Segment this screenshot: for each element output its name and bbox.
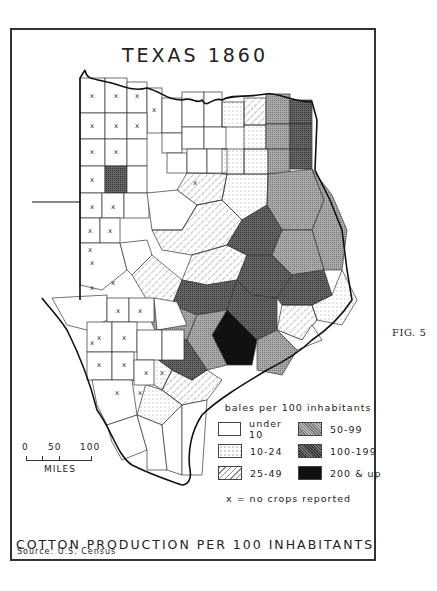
swatch-dark-crosshatch: [298, 444, 322, 458]
svg-text:x: x: [116, 307, 120, 315]
scale-tick-100: 100: [80, 442, 100, 452]
svg-text:x: x: [90, 203, 94, 211]
east-counties: [117, 169, 357, 425]
svg-text:x: x: [90, 259, 94, 267]
legend-item-10-24: 10-24: [218, 443, 298, 459]
svg-text:x: x: [160, 369, 164, 377]
svg-text:x: x: [90, 92, 94, 100]
svg-text:x: x: [88, 246, 92, 254]
swatch-medium-hatch: [298, 422, 322, 436]
legend-item-under-10: under 10: [218, 421, 298, 437]
svg-text:x: x: [114, 148, 118, 156]
svg-text:x: x: [90, 284, 94, 292]
figure-label: FIG. 5: [392, 327, 426, 338]
svg-text:x: x: [111, 203, 115, 211]
legend-item-100-199: 100-199: [298, 443, 388, 459]
svg-text:x: x: [122, 334, 126, 342]
scale-bar: 0 50 100 MILES: [22, 442, 102, 474]
svg-text:x: x: [152, 106, 156, 114]
svg-text:x: x: [90, 148, 94, 156]
legend-note: x = no crops reported: [226, 493, 388, 504]
svg-text:x: x: [97, 334, 101, 342]
svg-text:x: x: [90, 176, 94, 184]
svg-text:x: x: [135, 92, 139, 100]
svg-text:x: x: [144, 369, 148, 377]
map-frame: TEXAS 1860: [10, 28, 376, 561]
legend-item-200-up: 200 & up: [298, 465, 388, 481]
source-note: Source: U.S. Census: [17, 547, 116, 556]
svg-text:x: x: [114, 122, 118, 130]
svg-text:x: x: [97, 361, 101, 369]
svg-text:x: x: [115, 389, 119, 397]
svg-text:x: x: [108, 227, 112, 235]
svg-text:x: x: [138, 389, 142, 397]
northeast-counties: [222, 94, 312, 174]
svg-text:x: x: [138, 307, 142, 315]
svg-text:x: x: [114, 92, 118, 100]
scale-tick-0: 0: [22, 442, 29, 452]
legend-item-25-49: 25-49: [218, 465, 298, 481]
swatch-diagonal-lines: [218, 466, 242, 480]
swatch-solid-black: [298, 466, 322, 480]
scale-unit: MILES: [18, 464, 102, 474]
svg-text:x: x: [90, 122, 94, 130]
swatch-dots: [218, 444, 242, 458]
svg-text:x: x: [111, 279, 115, 287]
legend: bales per 100 inhabitants under 10 50-99…: [218, 402, 388, 504]
swatch-blank: [218, 422, 241, 436]
legend-heading: bales per 100 inhabitants: [208, 402, 388, 413]
scale-tick-50: 50: [48, 442, 61, 452]
svg-text:x: x: [90, 339, 94, 347]
legend-item-50-99: 50-99: [298, 421, 388, 437]
svg-text:x: x: [135, 122, 139, 130]
svg-text:x: x: [88, 227, 92, 235]
svg-text:x: x: [122, 361, 126, 369]
svg-text:x: x: [193, 179, 197, 187]
